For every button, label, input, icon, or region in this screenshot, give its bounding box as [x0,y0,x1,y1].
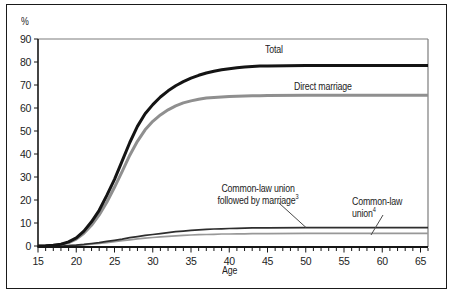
y-axis-unit-label: % [21,16,29,28]
y-tick-label: 0 [26,240,32,252]
x-tick-label: 35 [186,255,197,267]
y-tick-label: 90 [20,33,31,45]
series-label-direct-marriage: Direct marriage [294,81,352,93]
x-tick-label: 20 [71,255,82,267]
y-tick-label: 40 [20,148,31,160]
series-label-total: Total [265,44,283,56]
annotation-line: Common-law [352,195,402,207]
x-tick-label: 60 [377,255,388,267]
x-tick-label: 30 [147,255,158,267]
x-tick-label: 45 [262,255,273,267]
x-tick-label: 50 [300,255,311,267]
series-line-direct-marriage [38,95,428,246]
y-tick-label: 80 [20,56,31,68]
footnote-marker: 4 [373,206,376,213]
x-tick-label: 25 [109,255,120,267]
footnote-marker: 3 [295,193,298,200]
y-tick-label: 20 [20,194,31,206]
series-line-common-law-union-followed-by-marriage [38,228,428,246]
x-tick-label: 15 [33,255,44,267]
y-tick-label: 50 [20,125,31,137]
x-tick-label: 65 [415,255,426,267]
y-tick-label: 70 [20,79,31,91]
series-label-common-law-union: Common-law union4 [352,196,402,219]
y-tick-label: 60 [20,102,31,114]
x-tick-label: 55 [339,255,350,267]
annotation-line: Common-law union [221,182,294,194]
y-tick-label: 10 [20,217,31,229]
annotation-line: followed by marriage [217,194,295,206]
line-chart-canvas: 0102030405060708090152025303540455055606… [0,0,453,298]
series-label-common-law-union-followed-by-marriage: Common-law union followed by marriage3 [212,183,305,206]
chart-figure: 0102030405060708090152025303540455055606… [0,0,453,298]
x-axis-title: Age [222,265,237,277]
y-tick-label: 30 [20,171,31,183]
leader-line-common-law-union-followed-by-marriage [279,203,306,228]
series-line-common-law-union [38,233,428,246]
annotation-line: union [352,207,373,219]
